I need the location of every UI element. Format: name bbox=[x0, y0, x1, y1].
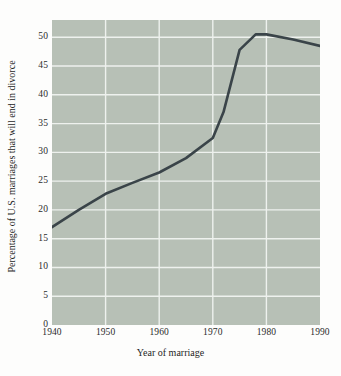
chart-canvas bbox=[52, 20, 320, 325]
x-tick-label: 1970 bbox=[193, 328, 233, 338]
x-tick-label: 1980 bbox=[246, 328, 286, 338]
data-series-line bbox=[52, 34, 320, 227]
x-tick-label: 1960 bbox=[139, 328, 179, 338]
series-path bbox=[52, 34, 320, 227]
y-tick-label: 35 bbox=[18, 119, 48, 129]
y-tick-label: 30 bbox=[18, 147, 48, 157]
y-axis-title-wrapper: Percentage of U.S. marriages that will e… bbox=[0, 0, 20, 340]
gridlines bbox=[52, 20, 320, 325]
x-tick-label: 1990 bbox=[300, 328, 340, 338]
x-tick-label: 1940 bbox=[32, 328, 72, 338]
y-tick-label: 10 bbox=[18, 262, 48, 272]
y-tick-label: 45 bbox=[18, 61, 48, 71]
x-tick-label: 1950 bbox=[86, 328, 126, 338]
y-tick-label: 40 bbox=[18, 90, 48, 100]
x-axis-title: Year of marriage bbox=[0, 347, 341, 358]
chart-figure: 05101520253035404550 1940195019601970198… bbox=[0, 0, 341, 376]
y-tick-label: 15 bbox=[18, 234, 48, 244]
y-axis-title: Percentage of U.S. marriages that will e… bbox=[6, 17, 17, 317]
y-tick-label: 5 bbox=[18, 291, 48, 301]
y-tick-label: 20 bbox=[18, 205, 48, 215]
y-tick-label: 25 bbox=[18, 176, 48, 186]
y-tick-label: 50 bbox=[18, 32, 48, 42]
plot-area bbox=[52, 20, 320, 325]
